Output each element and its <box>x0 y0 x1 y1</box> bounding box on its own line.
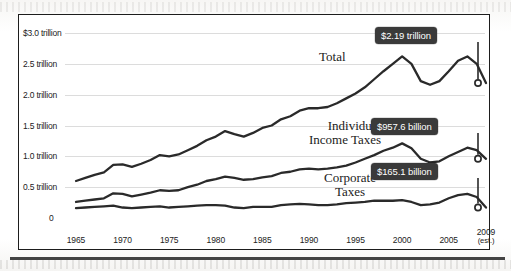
scan-artifact-top <box>0 2 511 12</box>
callout-badge-total: $2.19 trillion <box>375 27 437 44</box>
series-label-corporate-line1: Corporate <box>324 170 376 185</box>
series-end-marker <box>475 204 481 210</box>
callout-badge-corporate: $165.1 billion <box>371 163 438 180</box>
series-label-corporate-line2: Taxes <box>324 185 376 199</box>
series-label-individual-line2: Income Taxes <box>309 133 381 147</box>
plot-area: $3.0 trillion2.5 trillion2.0 trillion1.5… <box>19 15 489 249</box>
chart-frame: $3.0 trillion2.5 trillion2.0 trillion1.5… <box>18 14 490 250</box>
series-label-corporate-taxes: Corporate Taxes <box>324 171 376 198</box>
series-label-total: Total <box>319 50 346 64</box>
chart-page: $3.0 trillion2.5 trillion2.0 trillion1.5… <box>0 0 511 271</box>
series-end-marker <box>475 156 481 162</box>
series-end-marker <box>475 80 481 86</box>
scan-artifact-bottom <box>0 260 511 269</box>
callout-badge-individual: $957.6 billion <box>371 118 438 135</box>
scan-bottom-rule <box>10 257 505 260</box>
